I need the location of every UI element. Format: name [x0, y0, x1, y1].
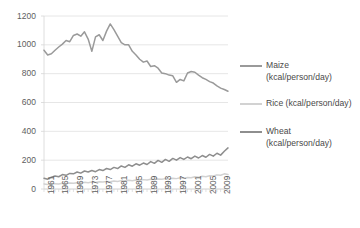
y-tick-label: 600	[6, 98, 36, 107]
y-tick-label: 1000	[6, 40, 36, 49]
legend-item[interactable]: Rice (kcal/person/day)	[240, 98, 358, 110]
x-tick-label: 1993	[165, 176, 173, 194]
legend-color-swatch	[240, 131, 262, 133]
x-tick-label: 2009	[224, 176, 232, 194]
legend-label: Wheat (kcal/person/day)	[266, 126, 332, 149]
legend-item[interactable]: Wheat (kcal/person/day)	[240, 126, 358, 149]
x-tick-label: 2001	[195, 176, 203, 194]
y-tick-label: 1200	[6, 12, 36, 21]
y-tick-label: 200	[6, 156, 36, 165]
x-tick-label: 1965	[62, 176, 70, 194]
y-tick-label: 800	[6, 69, 36, 78]
series-line	[44, 148, 228, 179]
legend-color-swatch	[240, 103, 262, 105]
x-tick-label: 1969	[77, 176, 85, 194]
y-tick-label: 0	[6, 185, 36, 194]
series-line	[44, 24, 228, 91]
x-tick-label: 2005	[210, 176, 218, 194]
x-tick-label: 1961	[48, 176, 56, 194]
x-tick-label: 1985	[136, 176, 144, 194]
legend-color-swatch	[240, 65, 262, 67]
x-tick-label: 1981	[121, 176, 129, 194]
y-tick-label: 400	[6, 127, 36, 136]
legend-item[interactable]: Maize (kcal/person/day)	[240, 60, 358, 83]
chart-container: 020040060080010001200 196119651969197319…	[0, 0, 360, 228]
x-tick-label: 1997	[180, 176, 188, 194]
legend-label: Rice (kcal/person/day)	[266, 98, 352, 110]
x-tick-label: 1977	[106, 176, 114, 194]
legend-label: Maize (kcal/person/day)	[266, 60, 332, 83]
x-tick-label: 1973	[92, 176, 100, 194]
x-tick-label: 1989	[151, 176, 159, 194]
